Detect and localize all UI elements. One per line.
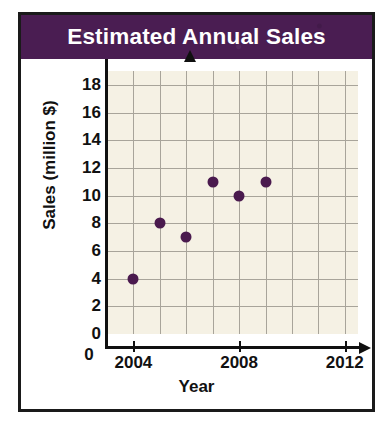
data-point (154, 218, 165, 229)
y-axis-tick-label: 18 (23, 75, 101, 95)
gridline-vertical (318, 71, 319, 334)
plot-area (107, 71, 358, 334)
gridline-horizontal (107, 306, 358, 307)
y-axis-tick-label: 4 (23, 269, 101, 289)
y-axis-tick-labels: 024681012141618 (21, 59, 101, 359)
y-axis-tick-label: 6 (23, 241, 101, 261)
y-axis-tick-label: 14 (23, 130, 101, 150)
gridline-vertical (160, 71, 161, 334)
y-axis-tick-label: 2 (23, 296, 101, 316)
x-axis-arrow-icon (359, 342, 371, 354)
y-axis-tick-label: 8 (23, 213, 101, 233)
gridline-horizontal (107, 140, 358, 141)
gridline-horizontal (107, 196, 358, 197)
x-axis-tick-label: 2008 (220, 353, 258, 373)
chart-title: Estimated Annual Sales (67, 24, 326, 50)
data-point (234, 190, 245, 201)
gridline-horizontal (107, 85, 358, 86)
origin-zero-label: 0 (84, 345, 93, 365)
x-axis-tick-mark (345, 341, 347, 352)
gridline-vertical (345, 71, 346, 334)
gridline-horizontal (107, 251, 358, 252)
data-point (207, 176, 218, 187)
gridline-vertical (239, 71, 240, 334)
y-axis-tick-label: 16 (23, 103, 101, 123)
gridline-vertical (186, 71, 187, 334)
data-point (128, 273, 139, 284)
y-axis-arrow-icon (184, 50, 196, 62)
y-axis-tick-label: 10 (23, 186, 101, 206)
data-point (260, 176, 271, 187)
gridline-horizontal (107, 223, 358, 224)
gridline-horizontal (107, 168, 358, 169)
y-axis-line (105, 59, 108, 349)
chart-body: Sales (million $) 024681012141618 200420… (21, 59, 372, 409)
chart-title-bar: Estimated Annual Sales (21, 15, 372, 59)
x-axis-tick-mark (133, 341, 135, 352)
x-axis-tick-label: 2004 (114, 353, 152, 373)
x-axis-tick-mark (239, 341, 241, 352)
gridline-horizontal (107, 279, 358, 280)
y-axis-tick-label: 0 (23, 324, 101, 344)
y-axis-tick-label: 12 (23, 158, 101, 178)
data-point (181, 232, 192, 243)
x-axis-title: Year (21, 377, 372, 397)
gridline-vertical (213, 71, 214, 334)
figure-card: Estimated Annual Sales Sales (million $)… (18, 12, 375, 412)
x-axis-line (105, 346, 361, 349)
gridline-vertical (133, 71, 134, 334)
x-axis-tick-label: 2012 (326, 353, 364, 373)
gridline-horizontal (107, 113, 358, 114)
gridline-vertical (266, 71, 267, 334)
gridline-vertical (292, 71, 293, 334)
